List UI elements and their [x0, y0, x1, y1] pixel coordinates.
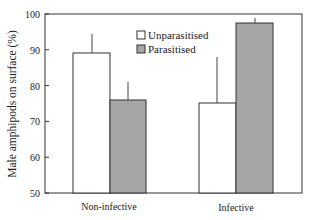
- legend-swatch-unparasitised: [137, 31, 145, 39]
- category-label: Non-infective: [81, 201, 137, 212]
- bar-parasitised: [236, 23, 273, 193]
- bar-group-non-infective: [73, 34, 146, 193]
- y-tick-label: 80: [30, 81, 40, 92]
- bar-unparasitised: [73, 53, 110, 193]
- y-tick-label: 90: [30, 45, 40, 56]
- y-tick-label: 70: [30, 116, 40, 127]
- legend-label: Unparasitised: [148, 29, 209, 41]
- y-axis-label: Male amphipods on surface (%): [6, 30, 19, 178]
- legend-swatch-parasitised: [137, 45, 145, 53]
- bar-parasitised: [110, 100, 146, 193]
- y-tick-label: 60: [30, 152, 40, 163]
- legend-label: Parasitised: [148, 43, 196, 55]
- bar-group-infective: [199, 18, 273, 193]
- bar-unparasitised: [199, 103, 236, 193]
- y-tick-label: 100: [25, 9, 40, 20]
- y-tick-label: 50: [30, 188, 40, 199]
- bar-chart: 50 60 70 80 90 100 Male amphipods on sur…: [0, 0, 310, 220]
- category-label: Infective: [218, 202, 254, 213]
- legend: Unparasitised Parasitised: [137, 29, 209, 55]
